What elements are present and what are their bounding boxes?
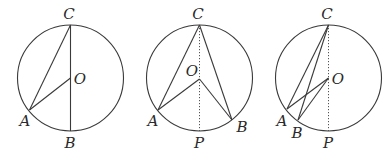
segment-CA — [287, 25, 329, 109]
geometry-canvas: COAB COABP COABP — [0, 0, 391, 154]
segment-AO — [30, 78, 71, 110]
point-label-A: A — [275, 112, 288, 130]
point-label-C: C — [63, 5, 75, 23]
segment-OB — [200, 79, 233, 120]
point-label-C: C — [321, 5, 333, 23]
point-label-O: O — [186, 62, 198, 80]
point-label-P: P — [193, 134, 205, 152]
point-label-A: A — [146, 112, 159, 130]
segment-AO — [287, 78, 329, 109]
figure-1-diameter-case: COAB — [18, 5, 124, 152]
point-label-O: O — [332, 70, 344, 88]
point-label-C: C — [192, 5, 204, 23]
geometry-figure-panel: COAB COABP COABP — [0, 0, 391, 154]
segment-BO — [298, 78, 329, 120]
point-label-A: A — [18, 112, 31, 130]
point-label-B: B — [290, 124, 302, 142]
point-label-B: B — [63, 134, 75, 152]
segment-CB — [200, 25, 233, 120]
point-label-O: O — [74, 70, 86, 88]
segment-CB — [298, 25, 329, 120]
figure-3-center-outside-angle: COABP — [275, 5, 382, 152]
segment-AO — [158, 79, 200, 110]
figure-2-center-inside-angle: COABP — [146, 5, 253, 152]
point-label-B: B — [235, 118, 247, 136]
point-label-P: P — [322, 134, 334, 152]
